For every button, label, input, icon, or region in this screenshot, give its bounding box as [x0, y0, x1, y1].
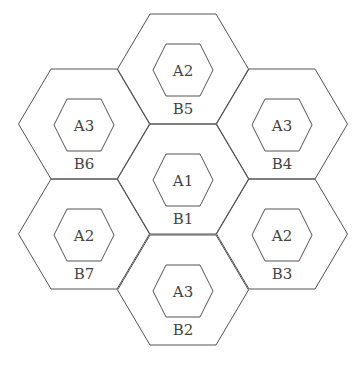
hex-cell-b5: A2B5 — [118, 14, 249, 124]
inner-label: A2 — [172, 62, 193, 80]
hexagon-cell-diagram: A1B1A3B2A2B3A3B4A2B5A3B6A2B7 — [0, 0, 361, 367]
inner-label: A2 — [73, 227, 94, 245]
hex-cell-b7: A2B7 — [19, 179, 150, 289]
inner-label: A2 — [271, 227, 292, 245]
outer-label: B7 — [74, 265, 95, 283]
outer-label: B3 — [272, 265, 293, 283]
outer-label: B6 — [74, 155, 95, 173]
inner-label: A3 — [172, 283, 193, 301]
hex-cell-b2: A3B2 — [118, 235, 249, 345]
inner-label: A3 — [271, 117, 292, 135]
hex-cell-b4: A3B4 — [217, 69, 348, 179]
inner-label: A1 — [172, 172, 193, 190]
hex-cell-b1: A1B1 — [118, 124, 249, 234]
outer-label: B1 — [173, 210, 194, 228]
outer-label: B5 — [173, 100, 194, 118]
hex-cell-b3: A2B3 — [217, 179, 348, 289]
outer-label: B2 — [173, 321, 194, 339]
hex-cell-b6: A3B6 — [19, 69, 150, 179]
outer-label: B4 — [272, 155, 293, 173]
inner-label: A3 — [73, 117, 94, 135]
